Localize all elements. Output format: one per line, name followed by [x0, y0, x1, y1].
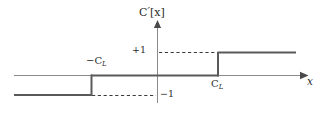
y-tick-label-plus-one: +1 [132, 45, 146, 55]
x-tick-label-positive-cl: CL [211, 79, 223, 91]
y-axis-label: C′[x] [139, 6, 165, 18]
x-tick-negative-cl-base: C [94, 55, 102, 66]
x-tick-positive-cl-base: C [211, 78, 219, 89]
x-axis-label: x [307, 76, 313, 87]
x-tick-label-negative-cl: −CL [86, 56, 107, 68]
x-tick-negative-cl-subscript: L [102, 60, 107, 68]
y-axis-label-bracket: [x] [150, 6, 165, 19]
step-function-chart: C′[x] x +1 −1 −CL CL [0, 0, 327, 114]
y-tick-label-minus-one: −1 [160, 89, 174, 99]
x-tick-positive-cl-subscript: L [219, 83, 224, 91]
y-axis-arrowhead [154, 20, 161, 28]
